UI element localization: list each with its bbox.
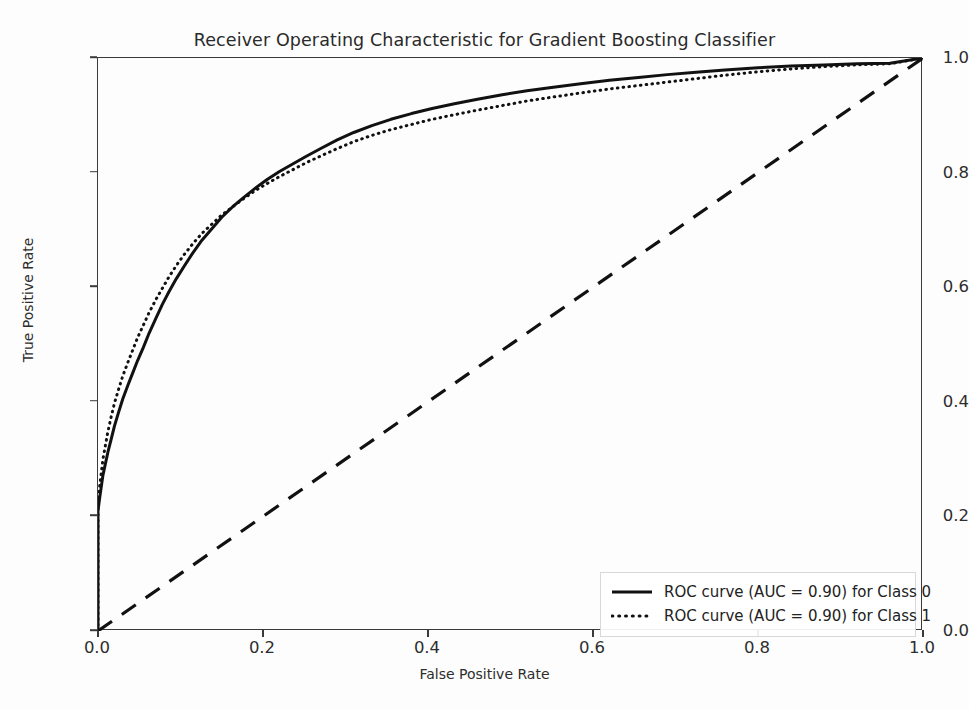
x-tick-2: 0.4: [397, 638, 457, 657]
x-tick-5: 1.0: [892, 638, 952, 657]
y-tick-mark-5: [90, 56, 97, 58]
legend-swatch-solid-icon: [611, 585, 653, 599]
y-axis-label: True Positive Rate: [20, 210, 36, 390]
plot-canvas: [98, 58, 923, 631]
chart-legend: ROC curve (AUC = 0.90) for Class 0 ROC c…: [600, 572, 916, 637]
y-tick-mark-0: [90, 629, 97, 631]
plot-area: [97, 57, 922, 630]
legend-label-class-0: ROC curve (AUC = 0.90) for Class 0: [664, 583, 931, 601]
y-tick-mark-1: [90, 515, 97, 517]
x-tick-mark-0: [97, 630, 99, 637]
chart-title: Receiver Operating Characteristic for Gr…: [0, 30, 969, 50]
y-tick-mark-4: [90, 171, 97, 173]
y-tick-4: 0.8: [923, 162, 969, 181]
x-axis-label: False Positive Rate: [0, 666, 969, 682]
y-tick-2: 0.4: [923, 391, 969, 410]
y-tick-3: 0.6: [923, 277, 969, 296]
y-tick-1: 0.2: [923, 506, 969, 525]
x-tick-mark-5: [922, 630, 924, 637]
x-tick-mark-3: [592, 630, 594, 637]
x-tick-1: 0.2: [232, 638, 292, 657]
x-tick-0: 0.0: [67, 638, 127, 657]
legend-swatch-dotted-icon: [611, 609, 653, 623]
roc-chart-figure: Receiver Operating Characteristic for Gr…: [0, 0, 969, 709]
y-tick-mark-3: [90, 285, 97, 287]
x-tick-mark-1: [262, 630, 264, 637]
y-tick-mark-2: [90, 400, 97, 402]
legend-item-class-0: ROC curve (AUC = 0.90) for Class 0: [611, 580, 905, 604]
x-tick-mark-2: [427, 630, 429, 637]
legend-item-class-1: ROC curve (AUC = 0.90) for Class 1: [611, 604, 905, 628]
x-tick-4: 0.8: [727, 638, 787, 657]
chance-diagonal-line: [98, 58, 923, 631]
y-tick-5: 1.0: [923, 48, 969, 67]
x-tick-3: 0.6: [562, 638, 622, 657]
legend-label-class-1: ROC curve (AUC = 0.90) for Class 1: [664, 607, 931, 625]
